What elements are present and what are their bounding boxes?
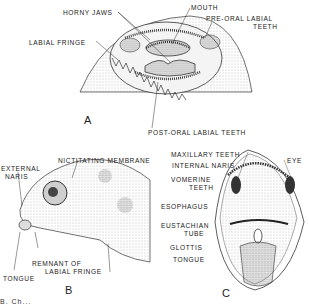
label-eustachian: EUSTACHIAN: [161, 222, 209, 229]
label-tongue-b: TONGUE: [3, 275, 35, 282]
label-post-oral-labial-teeth: POST-ORAL LABIAL TEETH: [148, 129, 246, 136]
panel-letter-b: B: [65, 284, 72, 296]
label-pre-oral-labial: PRE-ORAL LABIAL: [206, 15, 273, 22]
label-tongue-c: TONGUE: [173, 256, 205, 263]
label-external-naris: EXTERNAL: [1, 165, 41, 172]
label-internal-naris: INTERNAL NARIS: [172, 162, 235, 169]
label-nictitating-membrane: NICTITATING MEMBRANE: [58, 157, 150, 164]
label-glottis: GLOTTIS: [170, 244, 202, 251]
label-eye: EYE: [287, 157, 302, 164]
label-mouth: MOUTH: [191, 4, 218, 11]
label-external-naris-2: NARIS: [5, 173, 28, 180]
label-horny-jaws: HORNY JAWS: [63, 9, 113, 16]
panel-letter-a: A: [84, 114, 91, 126]
panel-a-drawing: [80, 8, 252, 128]
label-esophagus: ESOPHAGUS: [161, 203, 208, 210]
label-vomerine-teeth: TEETH: [189, 184, 214, 191]
panel-c-drawing: [215, 150, 304, 290]
panel-b-drawing: [14, 159, 150, 272]
panel-letter-c: C: [222, 287, 230, 299]
label-remnant-labial-fringe: LABIAL FRINGE: [45, 268, 102, 275]
label-maxillary-teeth: MAXILLARY TEETH: [171, 151, 240, 158]
label-vomerine: VOMERINE: [171, 176, 211, 183]
label-eustachian-tube: TUBE: [184, 230, 204, 237]
label-pre-oral-teeth: TEETH: [253, 23, 278, 30]
label-labial-fringe: LABIAL FRINGE: [29, 39, 86, 46]
figure-caption-fragment: B. Ch...: [0, 298, 31, 304]
label-remnant-of: REMNANT OF: [32, 260, 81, 267]
